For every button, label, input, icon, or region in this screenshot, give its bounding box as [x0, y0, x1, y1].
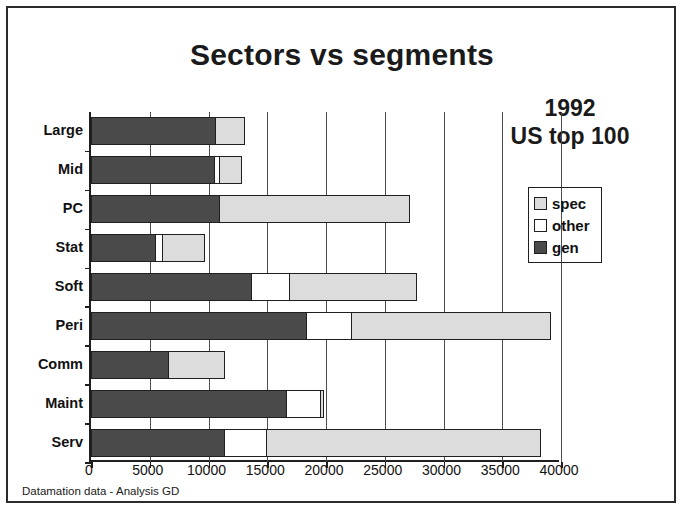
- y-axis-tick: [85, 151, 91, 153]
- y-axis-category-label: Comm: [3, 356, 83, 372]
- bar-segment-spec: [162, 234, 204, 262]
- y-axis-tick: [85, 384, 91, 386]
- y-axis-category-label: Maint: [3, 395, 83, 411]
- legend-item-label: other: [552, 218, 590, 233]
- bar-segment-gen: [91, 195, 220, 223]
- y-axis-tick: [85, 345, 91, 347]
- legend-item-other: other: [534, 214, 601, 236]
- x-gridline: [561, 112, 562, 462]
- bar-stack: [91, 195, 410, 223]
- y-axis-tick: [85, 423, 91, 425]
- bar-segment-other: [251, 273, 291, 301]
- y-axis-category-label: Mid: [3, 161, 83, 177]
- bar-stack: [91, 429, 541, 457]
- x-axis-tick-label: 40000: [519, 462, 599, 478]
- bar-stack: [91, 273, 417, 301]
- bar-segment-gen: [91, 117, 217, 145]
- bar-stack: [91, 117, 245, 145]
- bar-stack: [91, 234, 205, 262]
- bar-segment-gen: [91, 234, 157, 262]
- y-axis-tick: [85, 190, 91, 192]
- chart-source-caption: Datamation data - Analysis GD: [22, 485, 179, 497]
- x-gridline: [502, 112, 503, 462]
- y-axis-category-label: Peri: [3, 317, 83, 333]
- legend-item-gen: gen: [534, 236, 601, 258]
- x-gridline: [444, 112, 445, 462]
- legend-swatch-icon: [534, 197, 547, 210]
- bar-stack: [91, 390, 324, 418]
- bar-stack: [91, 351, 225, 379]
- legend-swatch-icon: [534, 241, 547, 254]
- bar-segment-spec: [215, 117, 244, 145]
- y-axis-tick: [85, 306, 91, 308]
- bar-segment-gen: [91, 273, 252, 301]
- legend-item-label: spec: [552, 196, 586, 211]
- bar-segment-other: [306, 312, 353, 340]
- bar-segment-spec: [219, 156, 243, 184]
- y-axis-category-label: Soft: [3, 278, 83, 294]
- bar-segment-gen: [91, 390, 287, 418]
- y-axis-category-label: Large: [3, 122, 83, 138]
- bar-segment-gen: [91, 312, 307, 340]
- bar-segment-spec: [219, 195, 411, 223]
- legend-item-label: gen: [552, 240, 579, 255]
- y-axis-category-label: Stat: [3, 239, 83, 255]
- bar-segment-other: [286, 390, 321, 418]
- y-axis-category-label: PC: [3, 200, 83, 216]
- bar-segment-spec: [289, 273, 417, 301]
- bar-segment-gen: [91, 351, 170, 379]
- bar-segment-spec: [168, 351, 224, 379]
- bar-segment-other: [224, 429, 267, 457]
- bar-stack: [91, 312, 551, 340]
- bar-segment-gen: [91, 156, 216, 184]
- chart-figure: Sectors vs segments 1992 US top 100 Larg…: [0, 0, 684, 512]
- y-axis-tick: [85, 268, 91, 270]
- legend-item-spec: spec: [534, 192, 601, 214]
- legend-swatch-icon: [534, 219, 547, 232]
- bar-segment-spec: [320, 390, 325, 418]
- y-axis-category-label: Serv: [3, 434, 83, 450]
- page-title: Sectors vs segments: [0, 38, 684, 72]
- bar-segment-gen: [91, 429, 225, 457]
- bar-segment-spec: [266, 429, 541, 457]
- plot-area: [89, 112, 559, 462]
- chart-legend: specothergen: [528, 187, 602, 263]
- y-axis-category-labels: LargeMidPCStatSoftPeriCommMaintServ: [0, 112, 83, 462]
- bar-segment-spec: [351, 312, 551, 340]
- bar-stack: [91, 156, 242, 184]
- y-axis-tick: [85, 229, 91, 231]
